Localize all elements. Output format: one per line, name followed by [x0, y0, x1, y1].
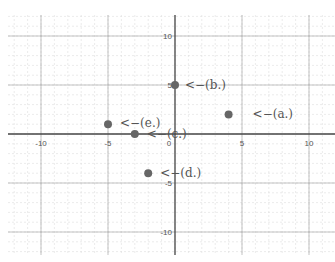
point-annotation: <−(d.) — [160, 166, 201, 180]
data-points: <−(a.)<−(b.)<−(c.)<−(d.)<−(e.) — [104, 78, 293, 180]
x-tick-label: -5 — [104, 139, 112, 148]
data-point — [225, 110, 233, 118]
data-point — [171, 81, 179, 89]
coordinate-plane: -10-50510105-5-10 <−(a.)<−(b.)<−(c.)<−(d… — [0, 0, 335, 262]
x-tick-label: 10 — [305, 139, 314, 148]
y-tick-label: -5 — [165, 179, 173, 188]
y-tick-label: -10 — [160, 228, 172, 237]
x-tick-label: 5 — [240, 139, 245, 148]
x-tick-label: -10 — [35, 139, 47, 148]
data-point — [104, 120, 112, 128]
point-annotation: <−(b.) — [185, 78, 226, 92]
y-tick-label: 10 — [163, 32, 172, 41]
data-point — [144, 169, 152, 177]
point-annotation: <−(e.) — [120, 116, 160, 130]
point-annotation: <−(a.) — [253, 107, 293, 121]
data-point — [131, 130, 139, 138]
